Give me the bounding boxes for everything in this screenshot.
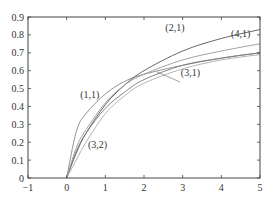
y-tick-label: 0.8 bbox=[12, 29, 25, 40]
x-tick-label: −1 bbox=[23, 182, 34, 193]
curve-(4,1) bbox=[67, 44, 260, 178]
y-tick-label: 0.3 bbox=[12, 119, 25, 130]
x-tick-label: 1 bbox=[103, 182, 108, 193]
x-tick-label: 4 bbox=[219, 182, 224, 193]
curve-label: (1,1) bbox=[80, 89, 99, 101]
curve-label: (3,2) bbox=[88, 139, 107, 151]
x-tick-label: 2 bbox=[142, 182, 147, 193]
y-tick-label: 0.6 bbox=[12, 65, 25, 76]
curve-labels: (1,1)(2,1)(4,1)(3,1)(3,2) bbox=[80, 22, 250, 150]
curves bbox=[67, 30, 260, 178]
y-axis-ticks: 00.10.20.30.40.50.60.70.80.9 bbox=[12, 12, 261, 184]
y-tick-label: 0.7 bbox=[12, 47, 25, 58]
x-tick-label: 3 bbox=[180, 182, 185, 193]
y-tick-label: 0.2 bbox=[12, 137, 25, 148]
y-tick-label: 0.9 bbox=[12, 12, 25, 23]
curve-label: (3,1) bbox=[181, 67, 200, 79]
y-tick-label: 0 bbox=[19, 173, 24, 184]
x-tick-label: 5 bbox=[258, 182, 263, 193]
line-chart: −1012345 00.10.20.30.40.50.60.70.80.9 (1… bbox=[0, 0, 271, 209]
curve-label: (4,1) bbox=[231, 28, 250, 40]
y-tick-label: 0.4 bbox=[12, 101, 25, 112]
plot-frame bbox=[28, 17, 260, 178]
curve-label: (2,1) bbox=[165, 22, 184, 34]
x-axis-ticks: −1012345 bbox=[23, 17, 263, 193]
y-tick-label: 0.1 bbox=[12, 155, 25, 166]
y-tick-label: 0.5 bbox=[12, 83, 25, 94]
curve-(3,2) bbox=[67, 55, 260, 178]
x-tick-label: 0 bbox=[64, 182, 69, 193]
curve-(2,1) bbox=[67, 30, 260, 178]
